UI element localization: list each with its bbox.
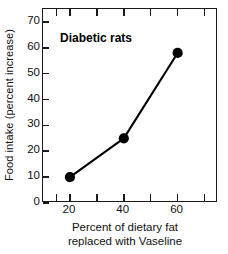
x-axis-tick-bottom [177,194,179,201]
plot-area: Diabetic rats [42,8,217,202]
y-axis-tick [43,21,49,23]
x-axis-tick-label: 60 [170,204,183,216]
y-axis-tick-label: 50 [18,67,40,79]
series-markers [65,48,183,182]
x-axis-tick-bottom [123,194,125,201]
x-axis-title-line-1: Percent of dietary fat [30,221,220,235]
y-axis-tick-label: 10 [18,170,40,182]
y-axis-tick-label: 60 [18,41,40,53]
x-axis-tick-bottom [150,194,152,201]
y-axis-tick [43,99,49,101]
y-axis-tick-labels: 010203040506070 [14,0,40,254]
y-axis-tick-label: 0 [18,196,40,208]
x-axis-tick-bottom [204,194,206,201]
x-axis-tick-top [150,9,152,16]
x-axis-tick-top [177,9,179,16]
y-axis-tick [43,125,49,127]
x-axis-title: Percent of dietary fat replaced with Vas… [30,221,220,248]
x-axis-tick-label: 20 [63,204,76,216]
x-axis-tick-bottom [56,194,58,201]
x-axis-tick-top [56,9,58,16]
x-axis-tick-bottom [96,194,98,201]
x-axis-tick-labels: 204060 [42,204,217,220]
data-point [173,48,183,58]
y-axis-tick-label: 20 [18,144,40,156]
y-axis-tick [43,73,49,75]
y-axis-tick [43,150,49,152]
y-axis-tick [43,176,49,178]
y-axis-tick-label: 30 [18,118,40,130]
y-axis-tick [43,47,49,49]
x-axis-tick-label: 40 [116,204,129,216]
x-axis-tick-bottom [69,194,71,201]
series-annotation-label: Diabetic rats [60,31,132,45]
series-polyline [70,53,178,177]
y-axis-tick-label: 40 [18,93,40,105]
x-axis-tick-top [69,9,71,16]
y-axis-tick-label: 70 [18,15,40,27]
chart-figure: Food intake (percent increase) 010203040… [0,0,228,254]
x-axis-tick-top [96,9,98,16]
data-point [119,133,129,143]
x-axis-title-line-2: replaced with Vaseline [30,235,220,249]
data-point [65,172,75,182]
x-axis-tick-top [123,9,125,16]
x-axis-tick-top [204,9,206,16]
